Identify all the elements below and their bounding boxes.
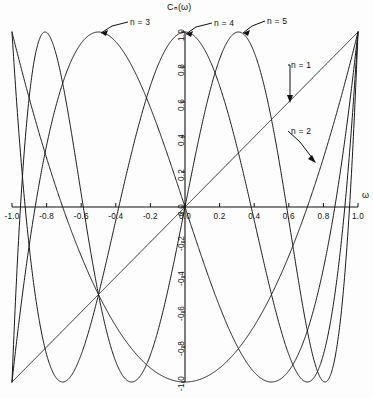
y-tick-label: -1.0 xyxy=(178,376,186,391)
x-tick-label: -0.2 xyxy=(143,213,158,221)
arrowhead-n2 xyxy=(308,155,316,163)
annotation-leaders xyxy=(101,21,316,163)
x-tick-label: 0.4 xyxy=(248,213,260,221)
y-tick-label: 0.6 xyxy=(178,99,186,111)
y-tick-label: 0.8 xyxy=(178,64,186,76)
x-tick-label: -0.4 xyxy=(108,213,123,221)
y-tick-label: 0.2 xyxy=(178,169,186,181)
leader-n5 xyxy=(243,21,265,33)
annotation-label-n5: n = 5 xyxy=(267,17,287,26)
y-tick-label: -0.6 xyxy=(178,306,186,321)
y-tick-label: -0.2 xyxy=(178,236,186,251)
annotation-label-n4: n = 4 xyxy=(214,19,234,28)
x-tick-label: 0.6 xyxy=(283,213,295,221)
leader-n1 xyxy=(288,65,290,98)
x-tick-label: 0.2 xyxy=(214,213,226,221)
x-tick-label: -0.8 xyxy=(39,213,54,221)
x-tick-label: 1.0 xyxy=(352,213,364,221)
y-tick-label: 0.0 xyxy=(178,204,186,216)
chart-plot-area xyxy=(0,0,373,398)
annotation-label-n1: n = 1 xyxy=(291,61,311,70)
y-tick-label: -0.8 xyxy=(178,341,186,356)
x-tick-label: -1.0 xyxy=(5,213,20,221)
y-tick-label: -0.4 xyxy=(178,271,186,286)
x-axis-title: ω xyxy=(362,191,369,200)
chart-figure: Cₙ(ω) ω n = 3 n = 4 n = 5 n = 1 n = 2 -1… xyxy=(0,0,373,398)
y-tick-label: 1.0 xyxy=(178,29,186,41)
annotation-label-n3: n = 3 xyxy=(130,18,150,27)
y-tick-label: 0.4 xyxy=(178,134,186,146)
annotation-label-n2: n = 2 xyxy=(291,127,311,136)
x-tick-label: -0.6 xyxy=(74,213,89,221)
x-tick-label: 0.8 xyxy=(317,213,329,221)
y-axis-title: Cₙ(ω) xyxy=(167,3,192,12)
